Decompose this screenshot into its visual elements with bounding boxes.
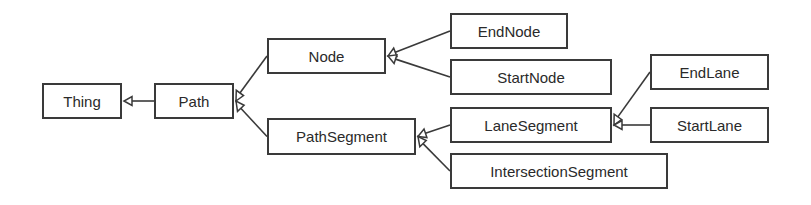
class-box-startnode: StartNode — [450, 59, 612, 95]
class-label: PathSegment — [296, 128, 387, 145]
class-box-endlane: EndLane — [650, 54, 769, 90]
class-box-startlane: StartLane — [650, 107, 769, 143]
class-box-endnode: EndNode — [450, 13, 568, 49]
hollow-arrowhead-icon — [388, 55, 397, 64]
class-label: IntersectionSegment — [490, 163, 628, 180]
hollow-arrowhead-icon — [124, 97, 132, 106]
class-label: LaneSegment — [484, 117, 577, 134]
class-label: StartLane — [677, 117, 742, 134]
class-label: StartNode — [497, 69, 565, 86]
class-box-thing: Thing — [42, 83, 122, 119]
generalization-edge — [396, 59, 450, 77]
hollow-arrowhead-icon — [418, 129, 427, 138]
class-label: Thing — [63, 93, 101, 110]
class-label: EndNode — [478, 23, 541, 40]
generalization-edge — [241, 108, 267, 136]
class-label: Node — [309, 48, 345, 65]
generalization-edge — [240, 56, 267, 93]
class-box-node: Node — [267, 38, 386, 74]
generalization-edge — [425, 125, 450, 133]
class-label: Path — [179, 93, 210, 110]
generalization-edge — [395, 31, 450, 52]
class-diagram: Thing Path Node PathSegment EndNode Star… — [0, 0, 811, 205]
class-box-path: Path — [154, 83, 234, 119]
generalization-edge — [423, 144, 450, 171]
class-box-pathsegment: PathSegment — [267, 118, 416, 155]
class-label: EndLane — [679, 64, 739, 81]
class-box-lanesegment: LaneSegment — [450, 107, 612, 143]
generalization-edge — [618, 72, 650, 117]
class-box-intersectionsegment: IntersectionSegment — [450, 153, 668, 189]
